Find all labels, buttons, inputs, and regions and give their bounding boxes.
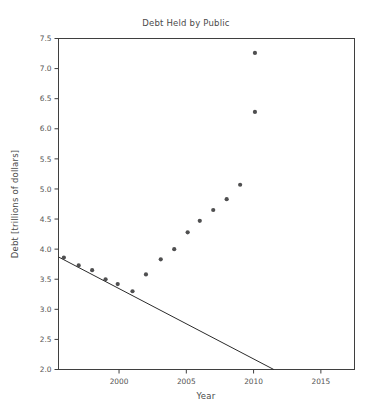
plot-frame [59,39,355,370]
y-tick-label: 7.5 [40,34,52,43]
x-tick-label: 2015 [311,377,330,386]
y-tick-label: 4.5 [40,215,52,224]
y-tick-label: 3.5 [40,275,52,284]
data-point [225,197,229,201]
plot-area: 2.02.53.03.54.04.55.05.56.06.57.07.5 200… [0,0,372,417]
y-axis-title: Debt [trillions of dollars] [10,150,20,259]
y-tick-label: 4.0 [40,245,52,254]
y-tick-label: 7.0 [40,64,52,73]
y-tick-label: 2.0 [40,365,52,374]
data-point [90,268,94,272]
data-point [198,219,202,223]
data-point [186,230,190,234]
chart-figure: Debt Held by Public 2.02.53.03.54.04.55.… [0,0,372,417]
scatter-points [62,51,257,294]
data-point [116,282,120,286]
data-point [62,255,66,259]
data-point [130,289,134,293]
x-tick-label: 2010 [244,377,263,386]
x-axis-title: Year [196,391,216,401]
data-point [172,247,176,251]
x-tick-label: 2005 [177,377,196,386]
data-point [211,208,215,212]
y-tick-label: 5.5 [40,155,52,164]
x-axis: 2000200520102015 [110,370,331,386]
y-tick-label: 2.5 [40,335,52,344]
data-point [103,277,107,281]
x-tick-label: 2000 [110,377,129,386]
data-point [238,183,242,187]
y-axis: 2.02.53.03.54.04.55.05.56.06.57.07.5 [40,34,59,374]
data-point [144,272,148,276]
y-tick-label: 5.0 [40,185,52,194]
y-tick-label: 6.5 [40,94,52,103]
data-point [77,263,81,267]
trend-line-path [59,257,274,370]
trend-line [59,257,274,370]
data-point [159,257,163,261]
y-tick-label: 6.0 [40,124,52,133]
data-point [253,51,257,55]
y-tick-label: 3.0 [40,305,52,314]
data-point [253,110,257,114]
